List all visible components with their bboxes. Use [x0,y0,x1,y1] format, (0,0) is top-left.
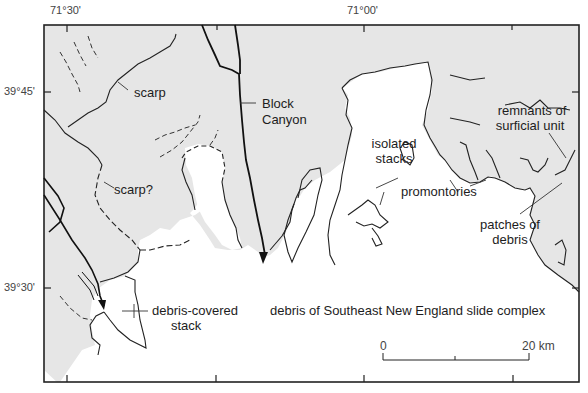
label-promontories: promontories [401,184,477,199]
label-patches-of-debris-line2: debris [470,232,550,247]
label-patches-of-debris-line1: patches of [470,217,550,232]
label-remnants-line2: surficial unit [482,118,578,133]
label-isolated-stacks-line1: isolated [364,136,424,151]
label-remnants-line1: remnants of [488,103,576,118]
label-debris-covered-stack-line2: stack [171,318,201,333]
seafloor-map [0,0,588,393]
label-scarp: scarp [134,85,166,100]
label-block-canyon-line1: Block [262,96,294,111]
label-slide-complex: debris of Southeast New England slide co… [270,303,545,318]
latitude-label-39-45: 39°45' [4,85,35,97]
longitude-label-71-30: 71°30' [50,4,81,16]
label-scarp-question: scarp? [114,182,153,197]
scale-bar-start-label: 0 [380,339,387,353]
label-block-canyon-line2: Canyon [262,112,307,127]
longitude-label-71-00: 71°00' [347,4,378,16]
label-debris-covered-stack-line1: debris-covered [152,303,238,318]
label-isolated-stacks-line2: stacks [364,151,424,166]
scale-bar-end-label: 20 km [522,339,555,353]
latitude-label-39-30: 39°30' [4,281,35,293]
